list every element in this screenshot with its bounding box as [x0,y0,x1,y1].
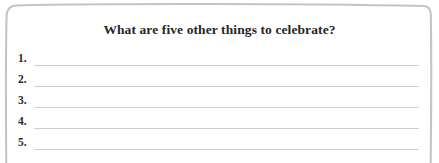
page-title: What are five other things to celebrate? [0,22,439,38]
list-item-number: 2. [18,74,27,86]
list-item-number: 5. [18,137,27,149]
list-item-number: 4. [18,116,27,128]
list-item-number: 3. [18,95,27,107]
list-item[interactable]: 2. [0,66,439,87]
list-item[interactable]: 3. [0,87,439,108]
worksheet-body: What are five other things to celebrate?… [0,0,439,163]
answer-list: 1. 2. 3. 4. 5. [0,45,439,150]
list-item[interactable]: 5. [0,129,439,150]
answer-line[interactable] [34,149,419,150]
list-item-number: 1. [18,53,27,65]
worksheet-card: What are five other things to celebrate?… [0,0,439,163]
list-item[interactable]: 4. [0,108,439,129]
list-item[interactable]: 1. [0,45,439,66]
